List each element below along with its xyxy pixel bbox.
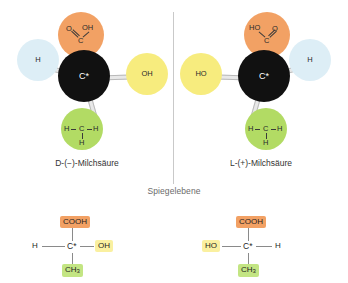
atom-hydroxyl: OH	[126, 53, 168, 95]
atom-hydrogen: H	[17, 39, 59, 81]
carboxyl-hydroxyl-label: OH	[82, 24, 93, 32]
fischer-right-group: OH	[95, 240, 113, 252]
fischer-bottom-group: CH3	[62, 264, 83, 277]
hydroxyl-label: HO	[195, 70, 206, 78]
methyl-left-hydrogen-label: H	[248, 125, 253, 133]
single-bond-ho-c	[259, 32, 266, 38]
molecule-model-d: O OH C H OH H C H H	[0, 0, 174, 155]
carboxyl-carbon-label: C	[78, 37, 83, 45]
methyl-carbon-label: C	[79, 125, 84, 133]
methyl-carbon-label: C	[263, 125, 268, 133]
double-bond-c-o	[268, 29, 277, 37]
methyl-bond-left	[71, 129, 76, 130]
methyl-bond-bottom	[266, 133, 267, 139]
fischer-bottom-group: CH3	[238, 264, 259, 277]
fischer-bond-right	[80, 246, 94, 247]
fischer-bond-left	[42, 246, 65, 247]
chiral-carbon-label: C*	[79, 72, 89, 81]
atom-hydrogen: H	[289, 39, 331, 81]
methyl-bottom-hydrogen-label: H	[263, 139, 268, 147]
carboxyl-carbon-label: C	[264, 37, 269, 45]
atom-hydroxyl: HO	[180, 53, 222, 95]
fischer-chiral-carbon: C*	[243, 241, 252, 251]
fischer-left-group: H	[32, 241, 38, 251]
fischer-bond-left	[222, 246, 241, 247]
hydrogen-label: H	[35, 56, 40, 64]
fischer-right-group: H	[275, 241, 281, 251]
fischer-projection-l: COOH HO C* H CH3	[174, 212, 348, 280]
methyl-bond-right	[87, 129, 92, 130]
fischer-bond-right	[256, 246, 272, 247]
fischer-left-group: HO	[202, 240, 220, 252]
methyl-bottom-hydrogen-label: H	[79, 139, 84, 147]
molecule-model-l: HO O C H HO H C H H C*	[174, 0, 348, 155]
fischer-projection-d: COOH H C* OH CH3	[0, 212, 174, 280]
methyl-right-hydrogen-label: H	[277, 125, 282, 133]
fischer-bottom-base: CH	[241, 265, 253, 274]
fischer-bottom-subscript: 3	[253, 268, 256, 274]
fischer-bond-top	[72, 228, 73, 241]
methyl-left-hydrogen-label: H	[64, 125, 69, 133]
fischer-bond-top	[248, 228, 249, 241]
methyl-bond-right	[271, 129, 276, 130]
mirror-plane-label: Spiegelebene	[0, 186, 348, 196]
hydroxyl-label: OH	[141, 70, 152, 78]
fischer-top-group: COOH	[236, 216, 266, 228]
atom-chiral-carbon: C*	[238, 50, 290, 102]
double-bond-o-c	[71, 29, 80, 37]
enantiomer-diagram: O OH C H OH H C H H	[0, 0, 348, 283]
methyl-bond-left	[255, 129, 260, 130]
fischer-top-group: COOH	[60, 216, 90, 228]
single-bond-c-oh	[83, 32, 90, 38]
fischer-chiral-carbon: C*	[67, 241, 76, 251]
atom-methyl-group: H C H H	[61, 108, 103, 150]
caption-l-lactic-acid: L-(+)-Milchsäure	[174, 158, 348, 168]
caption-d-lactic-acid: D-(−)-Milchsäure	[0, 158, 174, 168]
atom-chiral-carbon: C*	[58, 50, 110, 102]
methyl-bond-bottom	[82, 133, 83, 139]
atom-methyl-group: H C H H	[245, 108, 287, 150]
hydrogen-label: H	[307, 56, 312, 64]
fischer-bottom-base: CH	[65, 265, 77, 274]
methyl-right-hydrogen-label: H	[93, 125, 98, 133]
fischer-bottom-subscript: 3	[77, 268, 80, 274]
chiral-carbon-label: C*	[259, 72, 269, 81]
